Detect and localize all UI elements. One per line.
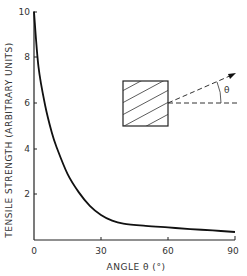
theta-label: θ [224,85,230,95]
y-tick-label: 8 [24,52,30,62]
inset-specimen-diagram: θ [113,61,240,168]
y-tick-labels: 10 8 6 4 2 [19,7,31,199]
y-axis-title: TENSILE STRENGTH (ARBITRARY UNITS) [4,42,14,239]
specimen-square [123,81,168,126]
chart: 10 8 6 4 2 0 30 60 90 ANGLE θ (°) TENSIL… [0,0,247,276]
x-tick-label: 60 [162,246,174,256]
y-tick-label: 6 [24,98,30,108]
y-tick-label: 4 [24,144,30,154]
y-tick-label: 2 [24,189,30,199]
load-direction-line [168,75,232,103]
x-tick-labels: 0 30 60 90 [31,246,239,256]
x-tick-label: 0 [31,246,37,256]
x-axis-title: ANGLE θ (°) [107,262,166,272]
x-tick-label: 90 [227,246,239,256]
x-tick-label: 30 [95,246,107,256]
angle-arc [217,82,221,103]
arrowhead-icon [228,73,236,79]
y-tick-label: 10 [19,7,31,17]
